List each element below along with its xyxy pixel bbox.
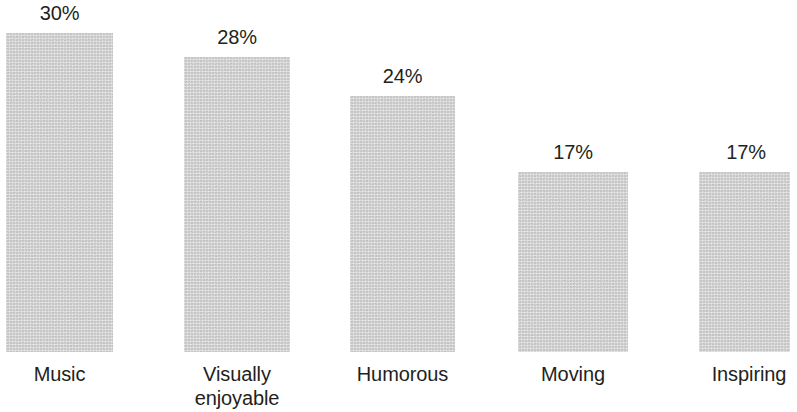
bar-chart: 30% Music 28% Visually enjoyable 24% Hum…	[0, 0, 797, 412]
value-label-music: 30%	[6, 3, 113, 23]
bar-visually-enjoyable	[184, 57, 290, 352]
category-label-music: Music	[0, 362, 133, 386]
value-label-visually-enjoyable: 28%	[184, 27, 290, 47]
value-label-humorous: 24%	[350, 66, 455, 86]
category-label-inspiring: Inspiring	[675, 362, 797, 386]
value-label-inspiring: 17%	[694, 142, 797, 162]
category-label-humorous: Humorous	[329, 362, 476, 386]
value-label-moving: 17%	[518, 142, 628, 162]
bar-music	[6, 33, 113, 352]
category-label-visually-enjoyable: Visually enjoyable	[164, 362, 310, 410]
bar-moving	[518, 172, 628, 352]
category-label-moving: Moving	[498, 362, 648, 386]
bar-humorous	[350, 96, 455, 352]
bar-inspiring	[699, 172, 790, 352]
